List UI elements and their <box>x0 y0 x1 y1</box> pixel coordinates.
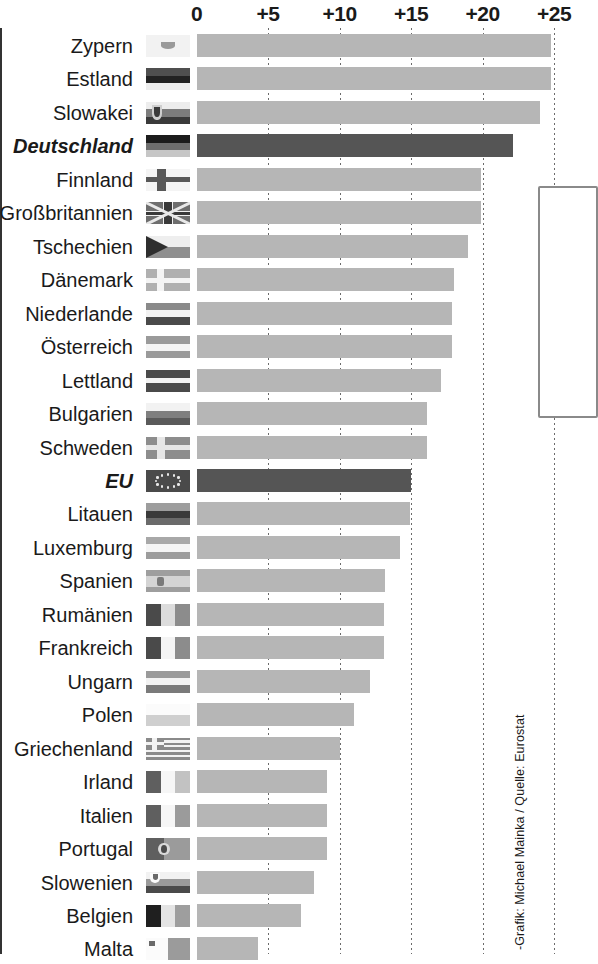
united-kingdom-flag <box>146 202 190 224</box>
chart-row: Luxemburg <box>0 535 550 568</box>
country-label: Luxemburg <box>0 535 133 561</box>
chart-row: Finnland <box>0 167 550 200</box>
chart-row: Belgien <box>0 903 550 936</box>
value-bar <box>197 904 301 927</box>
country-label: Slowenien <box>0 870 133 896</box>
country-label: Belgien <box>0 903 133 929</box>
country-label: Rumänien <box>0 602 133 628</box>
chart-row: Malta <box>0 936 550 964</box>
country-label: Bulgarien <box>0 401 133 427</box>
country-label: Frankreich <box>0 635 133 661</box>
czechia-flag <box>146 236 190 258</box>
france-flag <box>146 637 190 659</box>
country-label: Großbritannien <box>0 200 133 226</box>
value-bar <box>197 636 384 659</box>
x-axis-tick-label: +5 <box>257 2 280 26</box>
country-label: Spanien <box>0 568 133 594</box>
italy-flag <box>146 805 190 827</box>
chart-row: Slowenien <box>0 870 550 903</box>
hungary-flag <box>146 671 190 693</box>
value-bar <box>197 804 327 827</box>
finland-flag <box>146 169 190 191</box>
x-axis-tick-label: 0 <box>191 2 202 26</box>
chart-row: Niederlande <box>0 301 550 334</box>
country-label: Ungarn <box>0 669 133 695</box>
germany-flag <box>146 135 190 157</box>
spain-flag <box>146 570 190 592</box>
country-label: Italien <box>0 803 133 829</box>
callout-box <box>538 186 598 418</box>
x-axis-tick-label: +15 <box>394 2 428 26</box>
country-label: Dänemark <box>0 267 133 293</box>
chart-row: Slowakei <box>0 100 550 133</box>
x-axis-tick-label: +25 <box>537 2 571 26</box>
netherlands-flag <box>146 303 190 325</box>
luxembourg-flag <box>146 537 190 559</box>
slovenia-flag <box>146 872 190 894</box>
value-bar <box>197 536 400 559</box>
chart-row: Portugal <box>0 836 550 869</box>
greece-flag <box>146 738 190 760</box>
malta-flag <box>146 938 190 960</box>
value-bar <box>197 436 427 459</box>
cyprus-flag <box>146 35 190 57</box>
bulgaria-flag <box>146 403 190 425</box>
value-bar <box>197 369 442 392</box>
austria-flag <box>146 336 190 358</box>
value-bar <box>197 302 453 325</box>
portugal-flag <box>146 838 190 860</box>
value-bar <box>197 268 454 291</box>
value-bar <box>197 703 354 726</box>
chart-row: Tschechien <box>0 234 550 267</box>
chart-row: Rumänien <box>0 602 550 635</box>
ireland-flag <box>146 771 190 793</box>
country-label: Polen <box>0 702 133 728</box>
value-bar <box>197 502 410 525</box>
european-union-flag <box>146 470 190 492</box>
value-bar <box>197 737 340 760</box>
country-label: Tschechien <box>0 234 133 260</box>
chart-row: Schweden <box>0 435 550 468</box>
chart-row: Österreich <box>0 334 550 367</box>
chart-row: Ungarn <box>0 669 550 702</box>
value-bar <box>197 335 453 358</box>
x-axis-tick-label: +20 <box>465 2 499 26</box>
country-label: Griechenland <box>0 736 133 762</box>
chart-row: EU <box>0 468 550 501</box>
chart-row: Bulgarien <box>0 401 550 434</box>
value-bar <box>197 168 482 191</box>
denmark-flag <box>146 269 190 291</box>
country-label: Irland <box>0 769 133 795</box>
estonia-flag <box>146 68 190 90</box>
chart-row: Deutschland <box>0 133 550 166</box>
value-bar <box>197 134 513 157</box>
country-label: Österreich <box>0 334 133 360</box>
chart-row: Dänemark <box>0 267 550 300</box>
gridline <box>554 28 555 954</box>
chart-row: Großbritannien <box>0 200 550 233</box>
value-bar <box>197 603 384 626</box>
belgium-flag <box>146 905 190 927</box>
romania-flag <box>146 604 190 626</box>
chart-row: Frankreich <box>0 635 550 668</box>
country-label: Deutschland <box>0 133 133 159</box>
x-axis-tick-label: +10 <box>322 2 356 26</box>
value-bar <box>197 770 327 793</box>
value-bar <box>197 402 427 425</box>
country-label: Portugal <box>0 836 133 862</box>
value-bar <box>197 67 552 90</box>
value-bar <box>197 937 258 960</box>
value-bar <box>197 201 482 224</box>
value-bar <box>197 34 552 57</box>
sweden-flag <box>146 437 190 459</box>
value-bar <box>197 837 327 860</box>
value-bar <box>197 871 314 894</box>
chart-row: Irland <box>0 769 550 802</box>
chart-row: Lettland <box>0 368 550 401</box>
country-label: Malta <box>0 936 133 962</box>
chart-row: Spanien <box>0 568 550 601</box>
country-label: Zypern <box>0 33 133 59</box>
x-axis-tick-labels: 0+5+10+15+20+25 <box>0 0 550 30</box>
poland-flag <box>146 704 190 726</box>
